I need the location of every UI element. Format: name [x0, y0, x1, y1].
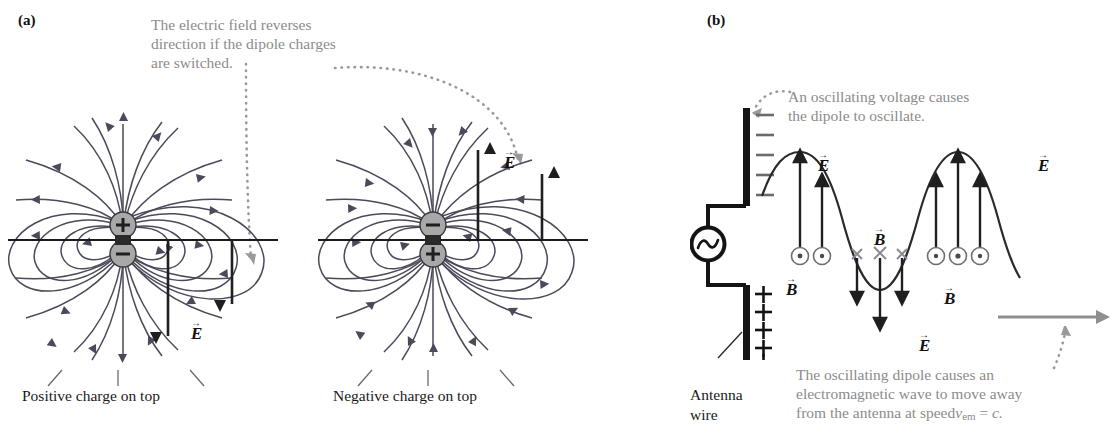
panel-b-bottom-annotation: The oscillating dipole causes an electro…: [796, 365, 1096, 426]
b-label-trough: →B: [874, 224, 885, 248]
panel-b-label: (b): [707, 12, 725, 29]
e-label-trough: →E: [919, 330, 930, 354]
left-dipole-caption: Positive charge on top: [22, 386, 160, 405]
e-label-crest-1: →E: [818, 150, 829, 174]
e-label-crest-2: →E: [1038, 150, 1049, 174]
b-symbols-out-of-page-1: [792, 248, 831, 265]
antenna-rod-lower: [743, 285, 750, 360]
upper-rod-minus-signs: [756, 115, 774, 195]
panel-b-bottom-annotation-leader: [1040, 322, 1080, 372]
antenna-wave-diagram: [690, 100, 1113, 360]
panel-a-annotation-line-1: The electric field reverses: [151, 15, 411, 34]
antenna-wire-label-line-1: Antenna: [690, 385, 780, 405]
antenna-rod-upper: [743, 108, 750, 206]
e-label-right-dipole: →E: [504, 147, 515, 171]
antenna-wire-label-line-2: wire: [690, 405, 780, 425]
dipole-diagram-negative-top: [310, 88, 595, 378]
right-caption-leader: [350, 368, 550, 388]
b-label-crest-1: →B: [786, 274, 797, 298]
panel-b-bottom-annotation-line-3-text: from the antenna at speed: [796, 404, 955, 421]
b-label-crest-2: →B: [944, 283, 955, 307]
antenna-wire-label: Antenna wire: [690, 385, 780, 425]
right-dipole-caption: Negative charge on top: [333, 386, 477, 405]
speed-equals: =: [976, 404, 993, 421]
lower-rod-plus-signs: [755, 286, 772, 360]
speed-value: c.: [992, 404, 1003, 421]
dipole-diagram-positive-top: [0, 88, 285, 378]
speed-subscript: em: [962, 410, 975, 422]
panel-a-label: (a): [18, 12, 36, 29]
b-symbols-out-of-page-2: [928, 248, 989, 265]
figure-root: (a) The electric field reverses directio…: [0, 0, 1113, 443]
antenna-wire-leader: [718, 332, 742, 358]
panel-a-annotation-line-2: direction if the dipole charges: [151, 34, 411, 53]
e-label-left-dipole: →E: [191, 318, 202, 342]
left-caption-leader: [40, 368, 240, 388]
panel-b-bottom-annotation-line-2: electromagnetic wave to move away: [796, 384, 1096, 403]
panel-b-bottom-annotation-line-3: from the antenna at speedvem = c.: [796, 403, 1096, 426]
